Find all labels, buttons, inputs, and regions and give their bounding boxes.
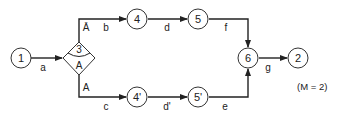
svg-text:1: 1 — [18, 52, 24, 64]
node-1: 1 — [11, 48, 31, 68]
node-5: 5 — [188, 9, 208, 29]
svg-text:5: 5 — [195, 13, 201, 25]
svg-text:6: 6 — [245, 52, 251, 64]
edge-label-d: d — [164, 22, 170, 33]
decision-node-3: 3 A — [63, 42, 95, 75]
edge-label-f: f — [225, 22, 228, 33]
svg-text:A: A — [76, 60, 83, 71]
branch-label-not-a: Ā — [83, 22, 90, 33]
edge-label-c: c — [104, 101, 109, 112]
annotation-m: (M = 2) — [297, 81, 327, 92]
svg-text:5': 5' — [194, 91, 202, 103]
svg-text:4': 4' — [133, 91, 141, 103]
node-4-prime: 4' — [127, 87, 147, 107]
node-2: 2 — [288, 48, 308, 68]
node-6: 6 — [238, 48, 258, 68]
edge-e — [209, 69, 248, 97]
node-4: 4 — [127, 9, 147, 29]
edge-label-g: g — [265, 62, 271, 73]
node-5-prime: 5' — [188, 87, 208, 107]
edge-label-b: b — [103, 22, 109, 33]
edge-f — [209, 19, 248, 47]
svg-text:4: 4 — [134, 13, 140, 25]
svg-text:3: 3 — [76, 44, 82, 55]
edge-label-d-prime: d' — [163, 101, 171, 112]
edge-label-a: a — [40, 62, 46, 73]
flow-diagram: 1 3 A 4 5 4' 5' 6 2 a Ā b A c d d' f e g… — [0, 0, 342, 118]
svg-text:2: 2 — [295, 52, 301, 64]
branch-label-a: A — [83, 82, 90, 93]
edge-label-e: e — [222, 101, 228, 112]
